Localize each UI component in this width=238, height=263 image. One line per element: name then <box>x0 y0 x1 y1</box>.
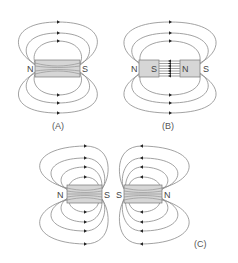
pole-label-s-left: S <box>104 190 110 200</box>
magnetic-field-diagram: N S (A) N S N S (B) <box>0 0 238 263</box>
pole-label-n: N <box>27 64 34 74</box>
bar-magnet <box>35 60 80 77</box>
pole-label-n-right: N <box>182 64 189 74</box>
panel-caption-c: (C) <box>194 239 207 249</box>
panel-caption-a: (A) <box>52 121 64 131</box>
pole-label-s-right: S <box>116 190 122 200</box>
pole-label-n-left: N <box>131 64 138 74</box>
pole-label-s-right: S <box>203 64 209 74</box>
pole-label-n-left: N <box>57 190 64 200</box>
panel-a: N S (A) <box>18 20 97 131</box>
pole-label-n-right: N <box>164 190 171 200</box>
panel-c: N S S N (C) <box>40 144 207 249</box>
panel-caption-b: (B) <box>162 121 174 131</box>
pole-label-s: S <box>82 64 88 74</box>
panel-b: N S N S (B) <box>124 20 216 131</box>
pole-label-s-left: S <box>151 64 157 74</box>
